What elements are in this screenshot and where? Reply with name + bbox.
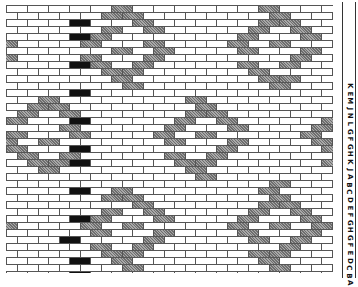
brick — [111, 271, 133, 273]
key-letter: F — [345, 212, 353, 217]
brick — [174, 271, 196, 273]
brick-pattern-grid — [6, 5, 333, 273]
key-letter: M — [345, 98, 353, 105]
letter-key-list: KEMJNLGFGHKJABCDEFGHGFEDCBA — [343, 82, 355, 287]
brick — [132, 271, 154, 273]
key-letter: D — [345, 258, 353, 264]
key-letter: G — [345, 144, 353, 150]
brick — [279, 271, 301, 273]
brick — [6, 271, 28, 273]
key-letter: D — [345, 197, 353, 203]
brick — [321, 271, 333, 273]
key-letter: H — [345, 227, 353, 233]
key-letter: C — [345, 190, 353, 195]
key-letter: J — [345, 168, 353, 171]
key-letter: J — [345, 107, 353, 110]
key-letter: H — [345, 151, 353, 157]
key-letter: E — [345, 250, 353, 255]
key-letter: C — [345, 265, 353, 270]
key-letter: E — [345, 91, 353, 96]
brick — [195, 271, 217, 273]
key-letter: N — [345, 113, 353, 119]
brick — [48, 271, 70, 273]
key-letter: L — [345, 122, 353, 126]
brick — [216, 271, 238, 273]
key-letter: A — [345, 281, 353, 286]
key-letter: E — [345, 205, 353, 210]
brick — [27, 271, 49, 273]
brick — [153, 271, 175, 273]
brick — [300, 271, 322, 273]
key-letter: B — [345, 182, 353, 187]
key-letter: B — [345, 273, 353, 278]
key-letter: K — [345, 159, 353, 164]
brick — [237, 271, 259, 273]
key-letter: G — [345, 220, 353, 226]
brick — [90, 271, 112, 273]
key-letter: F — [345, 243, 353, 248]
key-letter: G — [345, 235, 353, 241]
brick — [258, 271, 280, 273]
letter-key-strip: KEMJNLGFGHKJABCDEFGHGFEDCBA — [342, 2, 356, 278]
key-letter: A — [345, 174, 353, 179]
key-letter: F — [345, 137, 353, 142]
key-letter: G — [345, 128, 353, 134]
brick — [69, 271, 91, 273]
key-letter: K — [345, 83, 353, 88]
